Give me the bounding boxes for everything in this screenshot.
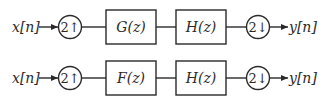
filter-block-2: H(z) bbox=[176, 61, 226, 95]
downsampler: 2↓ bbox=[247, 67, 270, 90]
row-2: x[n] 2↑ F(z) H(z) 2↓ y[n] bbox=[12, 61, 317, 95]
upsampler-label: 2↑ bbox=[60, 71, 79, 86]
downsampler: 2↓ bbox=[247, 16, 270, 39]
filter-block-1: G(z) bbox=[106, 10, 156, 44]
upsampler-label: 2↑ bbox=[60, 20, 79, 35]
input-label: x[n] bbox=[12, 70, 40, 86]
output-label: y[n] bbox=[288, 70, 317, 86]
filter-block-2: H(z) bbox=[176, 10, 226, 44]
filter-label: G(z) bbox=[116, 19, 145, 35]
filter-label: H(z) bbox=[185, 19, 217, 35]
filter-block-1: F(z) bbox=[106, 61, 156, 95]
filter-label: F(z) bbox=[116, 70, 145, 86]
filter-label: H(z) bbox=[185, 70, 217, 86]
upsampler: 2↑ bbox=[59, 67, 82, 90]
input-label: x[n] bbox=[12, 19, 40, 35]
upsampler: 2↑ bbox=[59, 16, 82, 39]
block-diagram: x[n] 2↑ G(z) H(z) 2↓ y[n] x[n] 2↑ bbox=[0, 0, 331, 105]
downsampler-label: 2↓ bbox=[248, 71, 267, 86]
row-1: x[n] 2↑ G(z) H(z) 2↓ y[n] bbox=[12, 10, 317, 44]
output-label: y[n] bbox=[288, 19, 317, 35]
downsampler-label: 2↓ bbox=[248, 20, 267, 35]
